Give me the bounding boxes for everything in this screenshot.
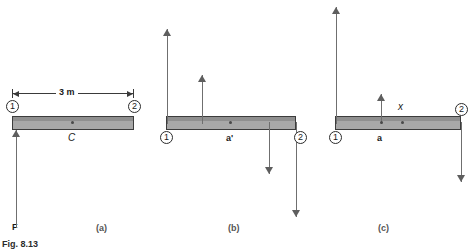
reaction-arrow-up-left-panel-c [332,7,341,124]
point-x-dot-panel-c [401,121,404,124]
node-2-panel-c: 2 [455,103,468,116]
reaction-arrow-down-right-panel-c [457,122,466,182]
arrow-shaft [461,122,462,182]
centroid-dot-panel-a [71,121,74,124]
arrow-shaft [167,29,168,124]
arrow-head-up [332,7,340,14]
dimension-label: 3 m [56,87,78,97]
centroid-dot-panel-b [229,121,232,124]
arrow-head-down [292,210,300,217]
dimension-arrow-left [13,91,19,97]
arrow-shaft [202,75,203,124]
load-arrow-up-mid-panel-b [198,75,207,124]
arrow-head-up [198,75,206,82]
point-a-dot-panel-c [380,121,383,124]
force-arrow-F [12,130,21,228]
load-arrow-down-mid-panel-b [265,122,274,174]
node-2-panel-a: 2 [128,100,141,113]
load-arrow-up-point-a-panel-c [377,94,386,124]
centroid-label-panel-b: a' [226,133,233,143]
node-1-panel-a: 1 [6,100,19,113]
arrow-shaft [16,130,17,228]
panel-sublabel-a: (a) [96,223,107,233]
arrow-head-up [163,29,171,36]
point-a-label-panel-c: a [377,133,382,143]
panel-sublabel-b: (b) [228,223,240,233]
figure-caption: Fig. 8.13 [2,239,38,249]
node-1-panel-b: 1 [160,131,173,144]
dimension-tick-right [133,89,134,98]
dimension-arrow-right [127,91,133,97]
arrow-shaft [336,7,337,124]
node-1-panel-c: 1 [329,131,342,144]
arrow-head-up [12,130,20,137]
arrow-head-down [457,175,465,182]
dimension-line-3m: 3 m [12,89,134,98]
point-x-label-panel-c: x [398,101,403,112]
arrow-head-down [265,167,273,174]
node-2-panel-b: 2 [294,131,307,144]
arrow-head-up [377,94,385,101]
centroid-label-panel-a: C [68,132,75,143]
reaction-arrow-up-left-panel-b [163,29,172,124]
beam-panel-c [335,116,461,130]
panel-sublabel-c: (c) [378,223,389,233]
